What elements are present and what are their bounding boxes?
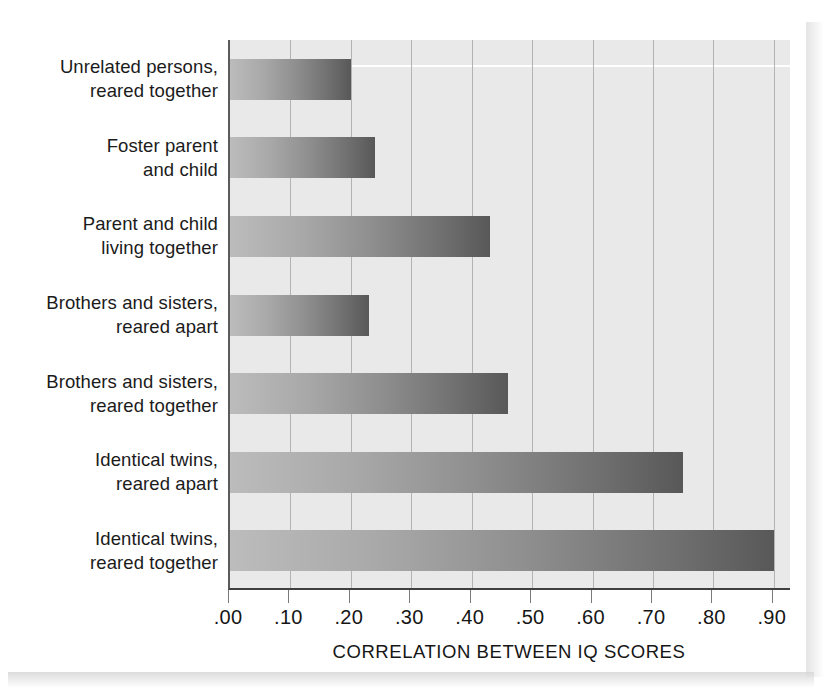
category-label-line2: living together xyxy=(4,236,218,260)
category-labels: Unrelated persons,reared togetherFoster … xyxy=(0,40,218,590)
x-axis-tick-label: .40 xyxy=(440,606,500,629)
x-axis-tick-label: .30 xyxy=(379,606,439,629)
scan-right-shadow xyxy=(806,22,824,677)
scan-top-edge xyxy=(0,0,832,10)
x-axis-tick-label: .70 xyxy=(621,606,681,629)
gridline xyxy=(774,40,775,588)
x-axis-tick xyxy=(772,590,773,603)
x-axis-tick xyxy=(288,590,289,603)
category-label-line2: and child xyxy=(4,158,218,182)
category-label-line1: Unrelated persons, xyxy=(4,55,218,79)
category-label: Parent and childliving together xyxy=(4,212,218,260)
category-label-line1: Parent and child xyxy=(4,212,218,236)
scan-bottom-shadow xyxy=(8,672,814,688)
x-axis-tick-label: .10 xyxy=(258,606,318,629)
bar xyxy=(230,295,369,336)
category-label-line2: reared together xyxy=(4,394,218,418)
x-axis-tick-label: .60 xyxy=(561,606,621,629)
category-label-line1: Foster parent xyxy=(4,134,218,158)
category-label: Foster parentand child xyxy=(4,134,218,182)
category-label: Identical twins,reared together xyxy=(4,527,218,575)
x-axis-tick-label: .90 xyxy=(742,606,802,629)
x-axis-tick xyxy=(711,590,712,603)
category-label-line1: Brothers and sisters, xyxy=(4,291,218,315)
bar xyxy=(230,216,490,257)
x-axis-tick-label: .20 xyxy=(319,606,379,629)
category-label-line2: reared together xyxy=(4,551,218,575)
gridline xyxy=(411,40,412,588)
x-axis-tick xyxy=(470,590,471,603)
x-axis-tick xyxy=(349,590,350,603)
gridline xyxy=(593,40,594,588)
gridline xyxy=(532,40,533,588)
category-label-line2: reared apart xyxy=(4,472,218,496)
x-axis-title: CORRELATION BETWEEN IQ SCORES xyxy=(228,641,790,663)
x-axis-tick-label: .50 xyxy=(500,606,560,629)
x-axis-tick xyxy=(409,590,410,603)
category-label: Unrelated persons,reared together xyxy=(4,55,218,103)
gridline xyxy=(472,40,473,588)
category-label-line1: Identical twins, xyxy=(4,527,218,551)
bar xyxy=(230,530,774,571)
category-label: Brothers and sisters,reared apart xyxy=(4,291,218,339)
x-axis-tick xyxy=(228,590,229,603)
x-axis-tick-label: .00 xyxy=(198,606,258,629)
gridline xyxy=(653,40,654,588)
x-axis-tick xyxy=(651,590,652,603)
x-axis-tick-label: .80 xyxy=(681,606,741,629)
plot-area xyxy=(228,40,790,590)
bar xyxy=(230,137,375,178)
category-label-line1: Brothers and sisters, xyxy=(4,370,218,394)
category-label: Identical twins,reared apart xyxy=(4,448,218,496)
category-label-line1: Identical twins, xyxy=(4,448,218,472)
bar xyxy=(230,452,683,493)
category-label-line2: reared together xyxy=(4,79,218,103)
category-label: Brothers and sisters,reared together xyxy=(4,370,218,418)
x-axis-tick xyxy=(591,590,592,603)
bar xyxy=(230,373,508,414)
chart-page: Unrelated persons,reared togetherFoster … xyxy=(0,0,832,700)
category-label-line2: reared apart xyxy=(4,315,218,339)
bar xyxy=(230,59,351,100)
gridline xyxy=(713,40,714,588)
x-axis-tick xyxy=(530,590,531,603)
